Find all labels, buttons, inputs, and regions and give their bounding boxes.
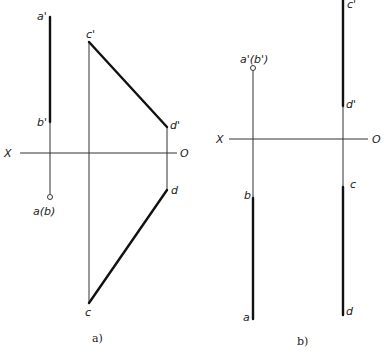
projection-diagram: X O a' b' a(b) c' d' d c a) X O a'(b') b…	[0, 0, 384, 354]
label-a-prime-b-prime: a'(b')	[240, 53, 268, 66]
axis-x-label-a: X	[3, 147, 12, 160]
figure-b: X O a'(b') b a c' d' c d b)	[215, 0, 381, 348]
segment-c-prime-d-prime	[89, 42, 167, 127]
label-c: c	[85, 306, 91, 319]
axis-x-label-b: X	[215, 133, 224, 146]
label-d-b: d	[346, 305, 354, 318]
label-a-prime: a'	[37, 10, 47, 23]
caption-b: b)	[297, 335, 308, 348]
label-d-prime-b: d'	[346, 98, 356, 111]
label-c-prime: c'	[86, 28, 95, 41]
point-a-b	[48, 195, 53, 200]
segment-c-d	[89, 190, 167, 303]
point-a-prime-b-prime	[251, 66, 256, 71]
axis-o-label-b: O	[372, 133, 381, 146]
label-d: d	[171, 184, 179, 197]
label-a-b: a(b)	[33, 205, 55, 218]
label-a: a	[243, 311, 250, 324]
caption-a: a)	[92, 332, 103, 345]
label-c-b: c	[350, 178, 356, 191]
figure-a: X O a' b' a(b) c' d' d c a)	[3, 10, 189, 345]
label-b: b	[244, 189, 251, 202]
label-d-prime: d'	[170, 119, 180, 132]
label-c-prime-b: c'	[347, 0, 356, 11]
label-b-prime: b'	[37, 116, 47, 129]
axis-o-label-a: O	[180, 147, 189, 160]
